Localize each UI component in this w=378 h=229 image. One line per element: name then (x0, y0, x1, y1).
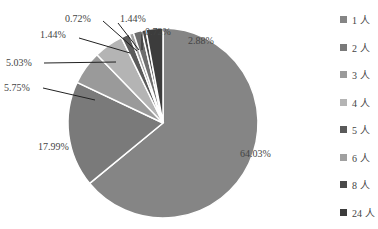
legend-item: 5 人 (340, 116, 378, 144)
legend-swatch (340, 71, 347, 78)
legend-item: 8 人 (340, 171, 378, 199)
legend-item: 4 人 (340, 89, 378, 117)
legend-label: 4 人 (352, 95, 370, 110)
legend-swatch (340, 44, 347, 51)
legend-item: 3 人 (340, 61, 378, 89)
legend-swatch (340, 154, 347, 161)
legend-swatch (340, 16, 347, 23)
legend-item: 6 人 (340, 144, 378, 172)
data-label: 0.72% (65, 13, 91, 24)
legend-swatch (340, 181, 347, 188)
legend-label: 6 人 (352, 150, 370, 165)
data-label: 1.44% (120, 13, 146, 24)
legend-swatch (340, 126, 347, 133)
legend-swatch (340, 99, 347, 106)
data-label: 64.03% (240, 148, 271, 159)
legend: 1 人 2 人 3 人 4 人 5 人 6 人 8 人 24 人 (340, 6, 378, 226)
legend-item: 1 人 (340, 6, 378, 34)
data-label: 17.99% (38, 141, 69, 152)
data-label: 2.88% (188, 35, 214, 46)
pie-chart: 64.03%17.99%5.75%5.03%1.44%0.72%1.44%0.7… (0, 0, 378, 229)
legend-label: 3 人 (352, 67, 370, 82)
data-label: 0.72% (145, 26, 171, 37)
legend-label: 8 人 (352, 177, 370, 192)
data-label: 5.03% (6, 57, 32, 68)
legend-item: 2 人 (340, 34, 378, 62)
legend-item: 24 人 (340, 199, 378, 227)
data-label: 1.44% (40, 29, 66, 40)
legend-label: 5 人 (352, 122, 370, 137)
legend-label: 1 人 (352, 12, 370, 27)
legend-swatch (340, 209, 347, 216)
data-label: 5.75% (4, 82, 30, 93)
legend-label: 2 人 (352, 40, 370, 55)
legend-label: 24 人 (352, 205, 375, 220)
